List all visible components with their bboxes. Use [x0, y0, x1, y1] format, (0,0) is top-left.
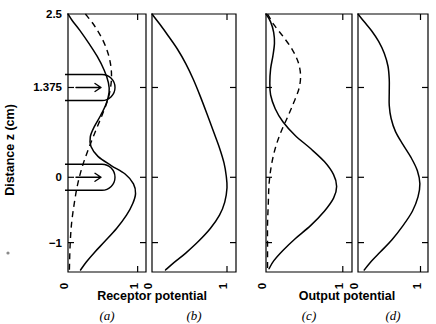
x-tick-label-d-1: 1: [411, 282, 423, 289]
axes-group: [68, 14, 428, 272]
curve-a-receptor-profile-solid: [68, 14, 136, 270]
flow-arrow-a-0: [76, 83, 101, 91]
panel-label-b: (b): [186, 308, 201, 323]
panel-label-d: (d): [385, 308, 400, 323]
figure-plot-area: 2.51.3750−1Distance z (cm)01010101Recept…: [0, 0, 436, 324]
curve-d-output-profile-solid: [358, 14, 420, 270]
x-axis-title-1: Output potential: [299, 289, 396, 303]
x-tick-label-c-0: 0: [256, 283, 268, 289]
panel-frame-b: [152, 14, 236, 272]
x-tick-label-b-1: 1: [217, 282, 229, 289]
curve-c-output-profile-solid: [266, 14, 337, 269]
curve-c-output-profile-dashed: [267, 14, 300, 269]
curve-b-receptor-profile-solid: [152, 14, 227, 270]
curves-group: [68, 14, 420, 270]
panel-frame-c: [266, 14, 352, 272]
figure-container: 2.51.3750−1Distance z (cm)01010101Recept…: [0, 0, 436, 324]
y-tick-label-1: 1.375: [33, 81, 62, 93]
curve-a-receptor-profile-dashed: [69, 14, 111, 270]
x-tick-label-a-0: 0: [58, 283, 70, 289]
annotations-group: [65, 74, 115, 190]
y-tick-label-0: 2.5: [46, 8, 63, 20]
panel-label-c: (c): [302, 308, 316, 323]
y-axis-title: Distance z (cm): [3, 104, 17, 196]
y-tick-label-2: 0: [56, 171, 62, 183]
panel-frame-a: [68, 14, 146, 272]
x-axis-title-0: Receptor potential: [97, 289, 207, 303]
y-tick-label-3: −1: [49, 237, 63, 249]
scan-artifact-dot: [6, 251, 9, 254]
panel-label-a: (a): [99, 308, 114, 323]
labels-group: 2.51.3750−1Distance z (cm)01010101Recept…: [3, 8, 423, 323]
panel-frame-d: [358, 14, 428, 272]
